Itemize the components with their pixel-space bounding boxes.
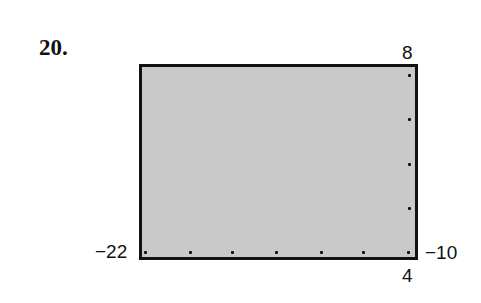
tick-dot-bottom (231, 251, 234, 254)
tick-dot-right (408, 163, 411, 166)
tick-dot-bottom (144, 251, 147, 254)
label-right: −10 (425, 243, 457, 262)
label-top: 8 (402, 43, 413, 62)
problem-number: 20. (39, 36, 68, 59)
tick-dot-right (408, 74, 411, 77)
tick-dot-bottom (275, 251, 278, 254)
label-bottom: 4 (402, 266, 413, 285)
tick-dot-right (408, 207, 411, 210)
tick-dot-right (408, 118, 411, 121)
label-left: −22 (95, 242, 127, 261)
tick-dot-bottom (320, 251, 323, 254)
tick-dot-bottom (189, 251, 192, 254)
tick-dot-bottom (362, 251, 365, 254)
viewing-window (139, 64, 418, 260)
tick-dot-bottom (407, 251, 410, 254)
